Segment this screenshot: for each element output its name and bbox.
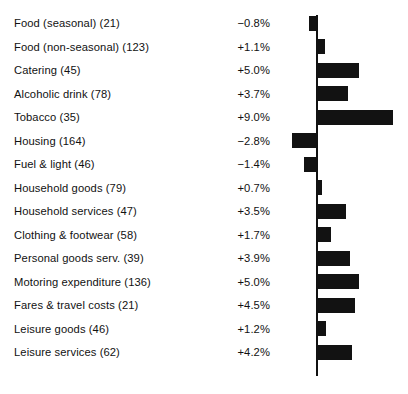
category-label: Clothing & footwear (58): [14, 228, 137, 241]
chart-row: Personal goods serv. (39)+3.9%: [0, 247, 408, 271]
chart-row: Food (non-seasonal) (123)+1.1%: [0, 35, 408, 59]
category-label: Household services (47): [14, 205, 137, 218]
category-label: Personal goods serv. (39): [14, 252, 144, 265]
category-label: Catering (45): [14, 64, 81, 77]
cpi-category-bar-chart: Food (seasonal) (21)−0.8%Food (non-seaso…: [0, 0, 408, 394]
chart-row: Leisure services (62)+4.2%: [0, 341, 408, 365]
chart-row: Household services (47)+3.5%: [0, 200, 408, 224]
category-label: Food (seasonal) (21): [14, 17, 120, 30]
value-label: +1.7%: [180, 228, 270, 241]
chart-row: Household goods (79)+0.7%: [0, 176, 408, 200]
chart-row: Food (seasonal) (21)−0.8%: [0, 12, 408, 36]
value-label: +1.1%: [180, 40, 270, 53]
chart-row: Fuel & light (46)−1.4%: [0, 153, 408, 177]
chart-row: Alcoholic drink (78)+3.7%: [0, 82, 408, 106]
value-label: +5.0%: [180, 275, 270, 288]
chart-row: Catering (45)+5.0%: [0, 59, 408, 83]
category-label: Motoring expenditure (136): [14, 275, 151, 288]
value-label: +4.2%: [180, 346, 270, 359]
category-label: Alcoholic drink (78): [14, 87, 111, 100]
category-label: Food (non-seasonal) (123): [14, 40, 149, 53]
value-label: −0.8%: [180, 17, 270, 30]
value-label: −2.8%: [180, 134, 270, 147]
value-label: +4.5%: [180, 299, 270, 312]
category-label: Housing (164): [14, 134, 86, 147]
chart-row: Fares & travel costs (21)+4.5%: [0, 294, 408, 318]
chart-row: Housing (164)−2.8%: [0, 129, 408, 153]
chart-row: Leisure goods (46)+1.2%: [0, 317, 408, 341]
value-label: +3.9%: [180, 252, 270, 265]
chart-row: Clothing & footwear (58)+1.7%: [0, 223, 408, 247]
value-label: +3.5%: [180, 205, 270, 218]
value-label: +5.0%: [180, 64, 270, 77]
value-label: +3.7%: [180, 87, 270, 100]
chart-row: Motoring expenditure (136)+5.0%: [0, 270, 408, 294]
value-label: +9.0%: [180, 111, 270, 124]
value-label: +1.2%: [180, 322, 270, 335]
chart-row: Tobacco (35)+9.0%: [0, 106, 408, 130]
category-label: Leisure services (62): [14, 346, 120, 359]
category-label: Household goods (79): [14, 181, 126, 194]
value-label: −1.4%: [180, 158, 270, 171]
category-label: Leisure goods (46): [14, 322, 109, 335]
value-label: +0.7%: [180, 181, 270, 194]
category-label: Fuel & light (46): [14, 158, 95, 171]
category-label: Tobacco (35): [14, 111, 80, 124]
category-label: Fares & travel costs (21): [14, 299, 138, 312]
